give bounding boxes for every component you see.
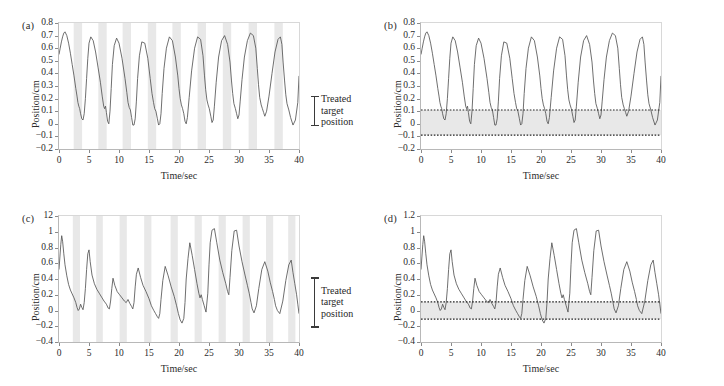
panel-ytick-mark (417, 279, 420, 280)
panel-ytick-mark (55, 149, 58, 150)
panel-ytick-label-3: 0.1 (16, 105, 53, 115)
panel-c: (c) Position/cm 0510152025303540−0.4−0.2… (0, 193, 362, 386)
panel-xtick-mark (631, 343, 632, 346)
panel-xtick-mark (541, 343, 542, 346)
panel-xtick-mark (481, 343, 482, 346)
panel-xtick-label-7: 35 (617, 155, 645, 165)
panel-ytick-label-2: 0 (378, 118, 415, 128)
panel-xtick-label-3: 15 (497, 155, 525, 165)
panel-xtick-label-5: 25 (195, 155, 223, 165)
panel-ytick-mark (55, 61, 58, 62)
panel-ytick-mark (55, 263, 58, 264)
panel-xtick-label-8: 40 (285, 348, 313, 358)
panel-xtick-mark (209, 343, 210, 346)
panel-xtick-mark (451, 150, 452, 153)
panel-xtick-label-7: 35 (255, 348, 283, 358)
panel-b-trace-svg (421, 23, 661, 149)
panel-ytick-mark (417, 149, 420, 150)
panel-ytick-mark (417, 61, 420, 62)
panel-d-plot-area (420, 215, 662, 343)
panel-xtick-mark (239, 343, 240, 346)
panel-ytick-mark (55, 311, 58, 312)
panel-xtick-mark (119, 343, 120, 346)
panel-a: (a) Position/cm 0510152025303540−0.2−0.1… (0, 0, 362, 193)
panel-xtick-mark (661, 150, 662, 153)
panel-xtick-label-4: 20 (165, 348, 193, 358)
annotation-line-3: position (321, 116, 353, 128)
panel-xtick-mark (421, 343, 422, 346)
panel-ytick-label-7: 1 (378, 226, 415, 236)
panel-xtick-label-6: 30 (587, 348, 615, 358)
panel-ytick-label-6: 0.8 (16, 242, 53, 252)
panel-ytick-mark (55, 111, 58, 112)
panel-xtick-mark (269, 150, 270, 153)
annotation-line-1: Treated (321, 93, 353, 105)
panel-xtick-label-4: 20 (527, 155, 555, 165)
panel-ytick-mark (417, 232, 420, 233)
panel-ytick-label-4: 0.2 (378, 93, 415, 103)
panel-xtick-mark (209, 150, 210, 153)
panel-ytick-label-7: 1 (16, 226, 53, 236)
panel-xtick-label-1: 5 (75, 155, 103, 165)
panel-ytick-mark (55, 48, 58, 49)
panel-xtick-mark (239, 150, 240, 153)
panel-b: (b) Position/cm 0510152025303540−0.2−0.1… (362, 0, 724, 193)
panel-ytick-label-7: 0.5 (378, 55, 415, 65)
panel-ytick-label-7: 0.5 (16, 55, 53, 65)
panel-a-trace-svg (59, 23, 299, 149)
panel-c-xlabel: Time/sec (58, 363, 300, 374)
panel-ytick-mark (417, 263, 420, 264)
panel-xtick-mark (571, 150, 572, 153)
panel-c-trace-svg (59, 216, 299, 342)
panel-xtick-label-2: 10 (467, 348, 495, 358)
panel-ytick-label-5: 0.6 (378, 257, 415, 267)
panel-xtick-label-0: 0 (407, 348, 435, 358)
panel-xtick-label-2: 10 (105, 348, 133, 358)
panel-ytick-label-3: 0.2 (378, 289, 415, 299)
panel-ytick-mark (417, 36, 420, 37)
annotation-line-2: target (321, 296, 353, 308)
panel-xtick-mark (149, 150, 150, 153)
panel-xtick-label-1: 5 (437, 155, 465, 165)
panel-xtick-mark (179, 150, 180, 153)
panel-ytick-label-1: −0.2 (16, 320, 53, 330)
panel-xtick-label-4: 20 (527, 348, 555, 358)
panel-ytick-label-6: 0.8 (378, 242, 415, 252)
figure-root: (a) Position/cm 0510152025303540−0.2−0.1… (0, 0, 724, 386)
panel-c-plot-area (58, 215, 300, 343)
panel-ytick-mark (55, 248, 58, 249)
panel-ytick-label-2: 0 (378, 305, 415, 315)
panel-ytick-mark (55, 279, 58, 280)
panel-xtick-mark (59, 150, 60, 153)
panel-ytick-label-6: 0.4 (16, 67, 53, 77)
panel-ytick-label-4: 0.4 (16, 273, 53, 283)
panel-ytick-mark (55, 36, 58, 37)
panel-ytick-mark (55, 23, 58, 24)
panel-xtick-mark (149, 343, 150, 346)
panel-ytick-label-1: −0.2 (378, 320, 415, 330)
panel-xtick-label-3: 15 (497, 348, 525, 358)
panel-b-plot-area (420, 22, 662, 150)
panel-xtick-label-6: 30 (225, 348, 253, 358)
panel-ytick-label-1: −0.1 (16, 130, 53, 140)
panel-d-trace-svg (421, 216, 661, 342)
panel-xtick-label-1: 5 (75, 348, 103, 358)
panel-ytick-mark (55, 86, 58, 87)
panel-ytick-label-8: 1.2 (378, 210, 415, 220)
panel-xtick-label-0: 0 (45, 348, 73, 358)
panel-ytick-label-5: 0.3 (378, 80, 415, 90)
panel-ytick-label-5: 0.6 (16, 257, 53, 267)
panel-d: (d) Position/cm 0510152025303540−0.4−0.2… (362, 193, 724, 386)
panel-ytick-label-8: 12 (16, 210, 53, 220)
panel-ytick-mark (417, 86, 420, 87)
panel-ytick-label-4: 0.4 (378, 273, 415, 283)
panel-xtick-label-2: 10 (105, 155, 133, 165)
panel-xtick-mark (601, 150, 602, 153)
panel-ytick-label-0: −0.4 (16, 336, 53, 346)
panel-ytick-label-2: 0 (16, 305, 53, 315)
panel-ytick-mark (55, 73, 58, 74)
panel-ytick-label-0: −0.2 (16, 143, 53, 153)
panel-xtick-label-2: 10 (467, 155, 495, 165)
annotation-line-1: Treated (321, 285, 353, 297)
annotation-line-3: position (321, 308, 353, 320)
